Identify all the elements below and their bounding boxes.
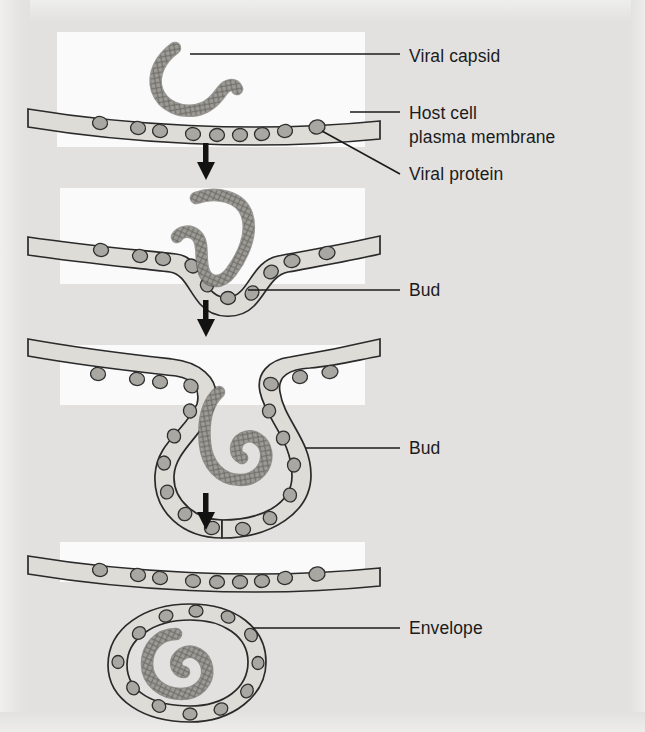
- panel-2-group: [28, 188, 380, 316]
- label-host-cell: Host cell: [409, 103, 477, 123]
- panel-3-membrane-left: [28, 339, 222, 538]
- label-bud-2: Bud: [409, 438, 440, 458]
- arrow-1: [197, 143, 215, 180]
- panel-1-group: [28, 32, 380, 147]
- label-plasma-membrane: plasma membrane: [409, 127, 555, 147]
- viral-budding-diagram: Viral capsid Host cell plasma membrane V…: [0, 0, 645, 732]
- figure-container: Viral capsid Host cell plasma membrane V…: [0, 0, 645, 732]
- label-bud-1: Bud: [409, 280, 440, 300]
- virion-capsid: [147, 634, 207, 694]
- panel-2-background: [60, 188, 365, 284]
- label-viral-capsid: Viral capsid: [409, 46, 500, 66]
- panel-4-group: [28, 542, 380, 722]
- virion-envelope: [108, 604, 266, 722]
- panel-3-capsid: [204, 392, 266, 480]
- label-envelope: Envelope: [409, 618, 483, 638]
- label-viral-protein: Viral protein: [409, 164, 503, 184]
